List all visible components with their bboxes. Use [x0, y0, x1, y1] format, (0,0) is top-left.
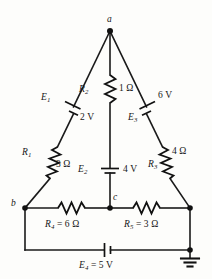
e4-subscript: 4: [85, 264, 89, 271]
r1-label: R1: [22, 148, 31, 158]
wire-r3-to-right-vertex: [170, 179, 190, 209]
node-dot-b: [22, 205, 28, 211]
e3-value: 6 V: [158, 91, 172, 101]
r4-label: R4 = 6 Ω: [45, 220, 79, 230]
node-label-a: a: [107, 15, 112, 25]
e1-value: 2 V: [80, 113, 94, 123]
e3-subscript: 3: [134, 116, 138, 123]
r4-resistor-symbol: [58, 203, 85, 214]
r2-value: 1 Ω: [119, 84, 134, 94]
r3-label: R3: [148, 160, 157, 170]
r2-subscript: 2: [85, 88, 89, 95]
e1-long-plate: [65, 102, 81, 110]
e3-long-plate: [140, 102, 156, 110]
r5-label: R5 = 3 Ω: [124, 220, 158, 230]
r3-subscript: 3: [154, 163, 158, 170]
wire-r1-to-b: [25, 179, 50, 209]
wire-a-to-e3: [110, 31, 147, 107]
r2-resistor-symbol: [105, 75, 116, 103]
e4-label: E4 = 5 V: [79, 261, 113, 271]
node-dot-a: [107, 28, 113, 34]
r5-subscript: 5: [130, 223, 134, 230]
e2-subscript: 2: [84, 168, 88, 175]
r4-subscript: 4: [51, 223, 55, 230]
e2-value: 4 V: [123, 165, 137, 175]
node-label-b: b: [11, 199, 16, 209]
node-dot-right-vertex: [187, 205, 193, 211]
node-dot-ground-junction: [187, 247, 193, 253]
r4-value: = 6 Ω: [54, 219, 79, 229]
circuit-diagram: a b c E1 2 V R2 1 Ω E3 6 V R1 3 Ω E2 4 V…: [0, 0, 212, 279]
r1-value: 3 Ω: [56, 160, 71, 170]
e1-label: E1: [41, 93, 50, 103]
schematic-svg: [0, 0, 212, 279]
wire-e3-to-r3: [147, 114, 163, 147]
r1-subscript: 1: [28, 151, 32, 158]
e4-value: = 5 V: [88, 260, 113, 270]
node-label-c: c: [113, 193, 117, 203]
wire-a-to-e1: [74, 31, 111, 107]
node-dot-c: [107, 205, 113, 211]
wire-e1-to-r1: [58, 114, 74, 147]
e2-label: E2: [78, 165, 87, 175]
r2-label: R2: [79, 85, 88, 95]
r3-value: 4 Ω: [172, 147, 187, 157]
e3-label: E3: [128, 113, 137, 123]
r5-resistor-symbol: [133, 203, 160, 214]
e1-subscript: 1: [47, 96, 51, 103]
r5-value: = 3 Ω: [133, 219, 158, 229]
